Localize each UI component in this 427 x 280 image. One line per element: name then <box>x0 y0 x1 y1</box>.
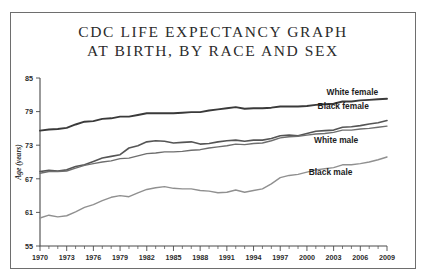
y-axis-ticks: 556167737985 <box>25 74 40 251</box>
x-tick-label: 1982 <box>139 253 155 262</box>
x-tick-label: 1988 <box>192 253 208 262</box>
series-line-black-male <box>40 157 387 218</box>
x-tick-label: 2006 <box>352 253 368 262</box>
x-tick-label: 1997 <box>272 253 288 262</box>
x-tick-label: 1973 <box>59 253 75 262</box>
x-tick-label: 1979 <box>112 253 128 262</box>
series-label-white-female: White female <box>326 87 378 97</box>
y-tick-label: 55 <box>25 242 33 251</box>
x-tick-label: 1985 <box>165 253 181 262</box>
chart-page: CDC LIFE EXPECTANCY GRAPH AT BIRTH, BY R… <box>0 0 427 280</box>
y-tick-label: 85 <box>25 74 33 83</box>
series-label-black-male: Black male <box>309 167 353 177</box>
x-tick-label: 1991 <box>219 253 235 262</box>
y-tick-label: 73 <box>25 141 33 150</box>
x-tick-label: 1970 <box>32 253 48 262</box>
x-tick-label: 2003 <box>326 253 342 262</box>
x-tick-label: 1976 <box>85 253 101 262</box>
y-tick-label: 67 <box>25 175 33 184</box>
y-axis-title: Age (years) <box>14 144 23 181</box>
x-tick-label: 2000 <box>299 253 315 262</box>
x-tick-label: 1994 <box>246 253 262 262</box>
y-axis-title-text: Age (years) <box>14 144 23 181</box>
series-labels: White femaleBlack femaleWhite maleBlack … <box>309 87 379 178</box>
y-tick-label: 79 <box>25 107 33 116</box>
series-line-white-male <box>40 126 387 173</box>
series-label-white-male: White male <box>314 135 359 145</box>
x-axis-ticks: 1970197319761979198219851988199119941997… <box>32 246 395 262</box>
series-lines <box>40 99 387 218</box>
y-tick-label: 61 <box>25 208 33 217</box>
line-chart-plot: 556167737985 197019731976197919821985198… <box>10 12 416 269</box>
x-tick-label: 2009 <box>379 253 395 262</box>
series-label-black-female: Black female <box>318 101 370 111</box>
